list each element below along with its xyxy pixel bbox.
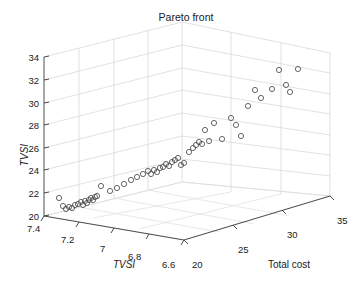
data-point	[252, 87, 257, 92]
data-point	[72, 202, 77, 207]
axis-z-vertical	[44, 56, 49, 216]
figure-container: 34 32 30 28 26 24 22 20 7.4 7.2 7 6.8 6.…	[0, 0, 359, 282]
data-point	[287, 89, 292, 94]
data-point	[60, 203, 65, 208]
x-tick-7p2: 7.2	[61, 234, 74, 245]
y-axis-title: Total cost	[268, 259, 310, 270]
y-tick-35: 35	[337, 215, 348, 226]
data-point	[190, 145, 195, 150]
z-tick-32: 32	[28, 75, 39, 86]
x-tick-labels: 7.4 7.2 7 6.8 6.6	[27, 223, 175, 270]
grid-back-right-wall	[182, 22, 330, 196]
data-point	[186, 149, 191, 154]
z-tick-24: 24	[28, 165, 39, 176]
z-tick-20: 20	[28, 211, 39, 222]
z-tick-26: 26	[28, 143, 39, 154]
x-tick-7p4: 7.4	[27, 223, 40, 234]
data-point	[114, 185, 119, 190]
x-tick-7: 7	[100, 243, 105, 254]
data-point	[134, 174, 139, 179]
data-point	[245, 103, 250, 108]
axis-y-total-cost	[184, 196, 334, 244]
data-point	[107, 188, 112, 193]
y-tick-30: 30	[287, 229, 298, 240]
data-point	[157, 165, 162, 170]
data-point	[211, 120, 216, 125]
data-point	[98, 183, 103, 188]
data-point	[283, 82, 288, 87]
data-point	[121, 181, 126, 186]
z-tick-30: 30	[28, 98, 39, 109]
data-point	[69, 205, 74, 210]
x-tick-6p6: 6.6	[162, 259, 175, 270]
pareto-front-3d-scatter: 34 32 30 28 26 24 22 20 7.4 7.2 7 6.8 6.…	[0, 0, 359, 282]
data-point	[160, 164, 165, 169]
z-tick-labels: 34 32 30 28 26 24 22 20	[28, 52, 39, 222]
z-tick-22: 22	[28, 188, 39, 199]
z-tick-28: 28	[28, 120, 39, 131]
z-axis-title: TVSI	[19, 144, 30, 166]
y-tick-25: 25	[238, 244, 249, 255]
y-tick-20: 20	[192, 259, 203, 270]
data-point	[140, 171, 145, 176]
z-tick-34: 34	[28, 52, 39, 63]
chart-title: Pareto front	[159, 11, 214, 23]
data-point	[202, 127, 207, 132]
data-point	[193, 142, 198, 147]
data-point	[258, 95, 263, 100]
data-point	[269, 86, 274, 91]
data-point	[238, 133, 243, 138]
x-axis-title: TVSI	[113, 259, 135, 270]
data-point	[56, 195, 61, 200]
data-point	[128, 177, 133, 182]
data-point	[233, 122, 238, 127]
